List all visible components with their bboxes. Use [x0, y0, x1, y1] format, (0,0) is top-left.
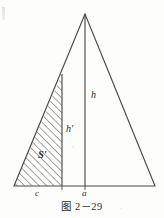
label-h: h: [91, 89, 96, 100]
figure-caption: 图 2－29: [0, 198, 164, 213]
figure-container: h h' S' c a 图 2－29: [0, 0, 164, 218]
triangle-figure-svg: h h' S' c a: [0, 0, 164, 218]
label-c: c: [35, 188, 39, 198]
label-s-prime: S': [38, 149, 47, 160]
label-a: a: [82, 188, 87, 198]
noise-speck: [120, 208, 122, 209]
noise-speck: [40, 110, 42, 112]
noise-speck: [72, 146, 74, 148]
label-h-prime: h': [66, 123, 74, 134]
